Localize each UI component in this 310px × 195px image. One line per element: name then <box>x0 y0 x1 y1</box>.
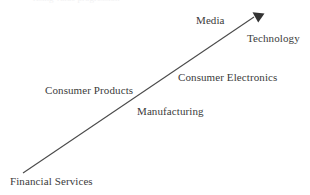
label-consumer-electronics: Consumer Electronics <box>178 71 277 83</box>
label-financial-services: Financial Services <box>10 175 93 187</box>
label-consumer-products: Consumer Products <box>45 84 133 96</box>
label-manufacturing: Manufacturing <box>137 105 204 117</box>
growth-arrow-head <box>253 12 265 22</box>
label-media: Media <box>196 14 225 26</box>
growth-arrow <box>0 0 310 195</box>
label-technology: Technology <box>247 32 300 44</box>
diagram-canvas: rising value progression Financial Servi… <box>0 0 310 195</box>
